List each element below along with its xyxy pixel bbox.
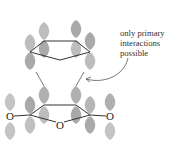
oxygen-left: O xyxy=(6,110,14,122)
lower-ring xyxy=(5,93,116,140)
upper-ring-bottom-lobes xyxy=(25,40,96,70)
orbital-diagram: O O O xyxy=(0,0,176,144)
oxygen-center: O xyxy=(56,119,64,131)
annotation-line-2: interactions xyxy=(120,38,165,48)
annotation-text: only primary interactions possible xyxy=(120,28,165,58)
oxygen-right: O xyxy=(106,110,114,122)
annotation-line-1: only primary xyxy=(120,28,165,38)
upper-ring xyxy=(25,20,96,70)
annotation-line-3: possible xyxy=(120,48,165,58)
connecting-lobes xyxy=(36,72,84,104)
